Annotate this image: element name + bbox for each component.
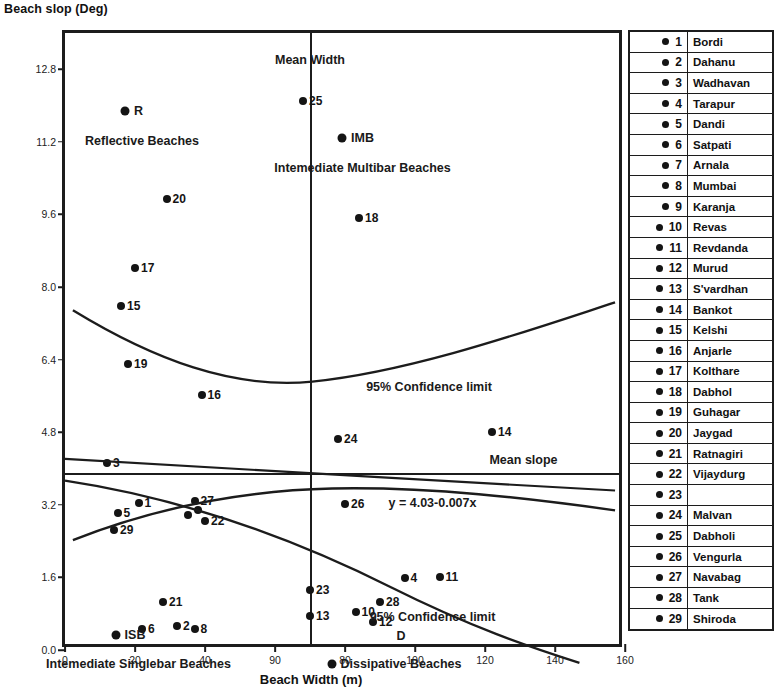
- legend-number: 16: [669, 344, 682, 358]
- y-axis-tick: 12.8: [36, 63, 65, 75]
- legend-row: 1Bordi: [630, 32, 772, 53]
- legend-panel: 1Bordi2Dahanu3Wadhavan4Tarapur5Dandi6Sat…: [628, 30, 774, 631]
- legend-name: Dandi: [688, 114, 772, 134]
- legend-number-cell: 13: [630, 279, 688, 299]
- data-point-label: 22: [211, 514, 224, 528]
- x-axis-tick: 90: [269, 644, 281, 666]
- legend-number: 19: [669, 405, 682, 419]
- legend-number: 15: [669, 323, 682, 337]
- data-point-label: 6: [148, 622, 155, 636]
- data-point-label: 2: [183, 619, 190, 633]
- legend-number-cell: 14: [630, 300, 688, 320]
- y-axis-tick: 9.6: [41, 208, 65, 220]
- legend-name: Revas: [688, 217, 772, 237]
- legend-number: 7: [675, 158, 682, 172]
- legend-number-cell: 2: [630, 53, 688, 73]
- legend-number: 3: [675, 76, 682, 90]
- legend-number-cell: 23: [630, 485, 688, 505]
- data-point-label: 16: [208, 388, 221, 402]
- annotation-marker-dissipative: [327, 659, 336, 668]
- legend-number-cell: 17: [630, 362, 688, 382]
- legend-name: Wadhavan: [688, 73, 772, 93]
- legend-row: 5Dandi: [630, 114, 772, 135]
- legend-name: Mumbai: [688, 176, 772, 196]
- data-point: [306, 586, 314, 594]
- legend-name: Kelshi: [688, 320, 772, 340]
- legend-row: 27Navabag: [630, 567, 772, 588]
- legend-row: 22Vijaydurg: [630, 464, 772, 485]
- legend-number: 10: [669, 220, 682, 234]
- legend-dot-icon: [656, 285, 663, 292]
- legend-name: Guhagar: [688, 403, 772, 423]
- legend-dot-icon: [656, 224, 663, 231]
- legend-number-cell: 6: [630, 135, 688, 155]
- legend-name: Kolthare: [688, 362, 772, 382]
- legend-name: Arnala: [688, 156, 772, 176]
- x-axis-tick-mark: [624, 644, 626, 652]
- x-axis-tick-label: 160: [616, 654, 634, 666]
- legend-name: Tarapur: [688, 94, 772, 114]
- x-axis-tick: 80: [339, 644, 351, 666]
- x-axis-tick-mark: [204, 644, 206, 652]
- x-axis-tick-label: 100: [406, 654, 424, 666]
- legend-name: Satpati: [688, 135, 772, 155]
- data-point-label: 18: [365, 211, 378, 225]
- legend-row: 26Vengurla: [630, 547, 772, 568]
- legend-row: 9Karanja: [630, 197, 772, 218]
- data-point: [131, 264, 139, 272]
- annotation-ci_upper: 95% Confidence limit: [366, 380, 492, 394]
- legend-dot-icon: [656, 430, 663, 437]
- legend-number: 26: [669, 550, 682, 564]
- x-axis-tick-mark: [414, 644, 416, 652]
- y-axis-tick: 1.6: [41, 571, 65, 583]
- legend-dot-icon: [662, 203, 669, 210]
- x-axis-tick: 160: [616, 644, 634, 666]
- annotation-imb_full: Intemediate Multibar Beaches: [274, 161, 450, 175]
- legend-name: S'vardhan: [688, 279, 772, 299]
- x-axis-tick-mark: [344, 644, 346, 652]
- data-point: [488, 428, 496, 436]
- data-point: [194, 506, 202, 514]
- legend-dot-icon: [656, 265, 663, 272]
- legend-number-cell: 25: [630, 526, 688, 546]
- data-point-label: 25: [309, 94, 322, 108]
- legend-dot-icon: [662, 100, 669, 107]
- data-point-label: 28: [386, 595, 399, 609]
- data-point: [306, 612, 314, 620]
- legend-row: 14Bankot: [630, 300, 772, 321]
- legend-number: 24: [669, 508, 682, 522]
- data-point: [201, 517, 209, 525]
- x-axis-tick-label: 20: [129, 654, 141, 666]
- legend-row: 7Arnala: [630, 156, 772, 177]
- data-point: [341, 500, 349, 508]
- legend-row: 3Wadhavan: [630, 73, 772, 94]
- data-point: [124, 360, 132, 368]
- legend-row: 23: [630, 485, 772, 506]
- mean-width-line: [310, 33, 312, 644]
- data-point-label: 26: [351, 497, 364, 511]
- legend-number-cell: 24: [630, 506, 688, 526]
- legend-row: 25Dabholi: [630, 526, 772, 547]
- data-point: [299, 97, 307, 105]
- legend-row: 13S'vardhan: [630, 279, 772, 300]
- data-point: [173, 622, 181, 630]
- legend-dot-icon: [662, 121, 669, 128]
- x-axis-title: Beach Width (m): [0, 672, 622, 687]
- annotation-mean_slope: Mean slope: [489, 453, 557, 467]
- data-point: [376, 598, 384, 606]
- legend-number: 6: [675, 138, 682, 152]
- legend-number-cell: 12: [630, 259, 688, 279]
- annotation-marker-r_label: [121, 107, 130, 116]
- legend-number-cell: 20: [630, 423, 688, 443]
- plot-area: 1234568101112131415161718192021222324252…: [62, 30, 622, 647]
- legend-row: 21Ratnagiri: [630, 444, 772, 465]
- y-axis-tick: 3.2: [41, 499, 65, 511]
- plot-inner: 1234568101112131415161718192021222324252…: [65, 33, 619, 644]
- data-point: [436, 573, 444, 581]
- data-point: [334, 435, 342, 443]
- legend-row: 19Guhagar: [630, 403, 772, 424]
- legend-number-cell: 1: [630, 32, 688, 52]
- data-point-label: 27: [201, 494, 214, 508]
- x-axis-tick-mark: [64, 644, 66, 652]
- legend-number-cell: 18: [630, 382, 688, 402]
